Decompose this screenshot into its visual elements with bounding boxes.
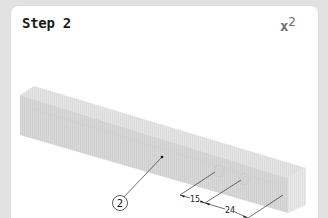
beam	[20, 86, 306, 213]
assembly-diagram: 2 15 24	[0, 0, 328, 218]
drill-hole-2	[239, 173, 249, 185]
dimension-label-15: 15	[190, 195, 200, 204]
dimension-label-24: 24	[225, 206, 235, 215]
drill-hole-1	[214, 165, 224, 177]
callout-number: 2	[117, 198, 123, 209]
